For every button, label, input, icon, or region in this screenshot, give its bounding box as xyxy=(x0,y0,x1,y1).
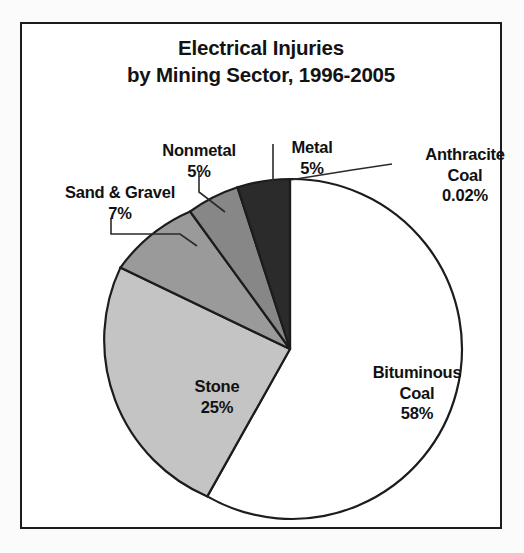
pie-label-stone: Stone 25% xyxy=(157,376,277,417)
pie-label-metal-name: Metal xyxy=(262,137,362,158)
pie-label-metal: Metal 5% xyxy=(262,137,362,178)
pie-label-stone-percent: 25% xyxy=(157,397,277,418)
pie-label-nonmetal-name: Nonmetal xyxy=(134,140,264,161)
pie-chart-area: Nonmetal 5% Sand & Gravel 7% Metal 5% An… xyxy=(22,24,500,527)
pie-label-anthracite-coal-name-1: Anthracite xyxy=(400,144,524,165)
pie-label-anthracite-coal-percent: 0.02% xyxy=(400,185,524,206)
pie-label-stone-name: Stone xyxy=(157,376,277,397)
pie-label-bituminous-coal-name-2: Coal xyxy=(352,383,482,404)
page-background: Electrical Injuries by Mining Sector, 19… xyxy=(0,0,524,553)
pie-label-bituminous-coal: Bituminous Coal 58% xyxy=(352,362,482,424)
pie-label-anthracite-coal: Anthracite Coal 0.02% xyxy=(400,144,524,206)
chart-frame: Electrical Injuries by Mining Sector, 19… xyxy=(20,22,502,529)
pie-label-nonmetal-percent: 5% xyxy=(134,161,264,182)
pie-label-sand-and-gravel-percent: 7% xyxy=(30,203,210,224)
pie-label-nonmetal: Nonmetal 5% xyxy=(134,140,264,181)
pie-label-anthracite-coal-name-2: Coal xyxy=(400,165,524,186)
pie-label-metal-percent: 5% xyxy=(262,158,362,179)
pie-label-sand-and-gravel-name: Sand & Gravel xyxy=(30,182,210,203)
pie-label-bituminous-coal-percent: 58% xyxy=(352,403,482,424)
pie-label-bituminous-coal-name-1: Bituminous xyxy=(352,362,482,383)
pie-chart-graphic xyxy=(22,24,504,531)
pie-label-sand-and-gravel: Sand & Gravel 7% xyxy=(30,182,210,223)
